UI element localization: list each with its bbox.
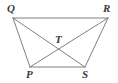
segment-QS-diagonal (13, 18, 85, 67)
geometry-figure: Q R T P S (0, 0, 118, 83)
vertex-label-p: P (26, 69, 33, 80)
vertex-label-s: S (82, 69, 88, 80)
vertex-label-r: R (103, 3, 110, 14)
vertex-label-q: Q (7, 3, 15, 14)
vertex-label-t: T (55, 34, 62, 45)
segment-QP (13, 18, 30, 67)
